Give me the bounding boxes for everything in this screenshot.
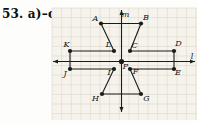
point-label-H: H xyxy=(91,94,100,103)
point-label-G: G xyxy=(143,94,150,103)
point-label-P: P xyxy=(122,62,129,71)
point-A xyxy=(99,21,103,25)
point-F xyxy=(128,67,132,71)
point-K xyxy=(68,49,72,53)
point-label-K: K xyxy=(63,40,71,49)
line-label-m: m xyxy=(122,10,130,19)
point-D xyxy=(172,49,176,53)
point-label-F: F xyxy=(132,67,139,76)
point-J xyxy=(68,67,72,71)
point-label-A: A xyxy=(92,14,99,23)
geometry-figure-svg: lmABKLCDPJIFEHG xyxy=(0,0,197,123)
point-label-L: L xyxy=(105,40,111,49)
point-label-E: E xyxy=(174,68,181,77)
point-label-B: B xyxy=(142,13,149,22)
point-label-C: C xyxy=(131,41,137,50)
point-C xyxy=(128,49,132,53)
point-I xyxy=(112,67,116,71)
point-B xyxy=(139,21,143,25)
point-H xyxy=(100,92,104,96)
point-L xyxy=(112,49,116,53)
point-label-D: D xyxy=(174,39,182,48)
line-label-l: l xyxy=(191,52,194,61)
